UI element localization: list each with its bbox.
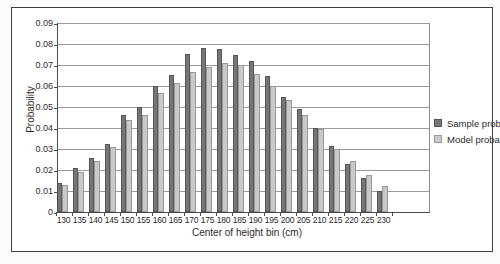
- bar-175-model: [206, 67, 212, 212]
- model-probability-swatch: [434, 135, 442, 143]
- sample-probability-swatch: [434, 119, 442, 127]
- bar-140-model: [94, 161, 100, 211]
- x-axis-line: [56, 212, 430, 213]
- bar-135-model: [78, 172, 84, 212]
- y-tick-mark: [54, 66, 57, 67]
- x-tick-mark: [232, 213, 233, 216]
- x-tick-mark: [392, 213, 393, 216]
- y-tick-label-0.01: 0.01: [21, 187, 53, 196]
- bar-145-model: [110, 147, 116, 211]
- y-tick-mark: [54, 171, 57, 172]
- bar-215-model: [334, 149, 340, 212]
- bar-225-model: [366, 175, 372, 212]
- bar-200-model: [286, 100, 292, 211]
- x-tick-mark: [296, 213, 297, 216]
- x-tick-mark: [120, 213, 121, 216]
- y-tick-mark: [54, 150, 57, 151]
- y-tick-mark: [54, 87, 57, 88]
- x-tick-mark: [216, 213, 217, 216]
- x-tick-mark: [360, 213, 361, 216]
- legend-item-model: Model probability: [434, 134, 500, 145]
- x-tick-mark: [280, 213, 281, 216]
- bar-220-model: [350, 161, 356, 211]
- x-tick-mark: [344, 213, 345, 216]
- bar-230-model: [382, 186, 388, 211]
- bar-205-model: [302, 115, 308, 212]
- x-tick-mark: [264, 213, 265, 216]
- x-tick-mark: [376, 213, 377, 216]
- bar-195-model: [270, 86, 276, 212]
- y-tick-label-0.03: 0.03: [21, 145, 53, 154]
- y-tick-label-0.02: 0.02: [21, 166, 53, 175]
- plot-right-border: [429, 23, 430, 213]
- legend-label-sample: Sample probability: [447, 118, 500, 129]
- x-tick-mark: [136, 213, 137, 216]
- x-tick-mark: [328, 213, 329, 216]
- x-tick-mark: [56, 213, 57, 216]
- x-tick-label-230: 230: [375, 216, 393, 225]
- y-tick-label-0: 0: [21, 208, 53, 217]
- bar-130-model: [62, 185, 68, 211]
- bar-165-model: [174, 83, 180, 211]
- x-tick-mark: [152, 213, 153, 216]
- x-tick-mark: [248, 213, 249, 216]
- bar-150-model: [126, 120, 132, 211]
- x-tick-mark: [184, 213, 185, 216]
- y-tick-label-0.04: 0.04: [21, 124, 53, 133]
- x-tick-mark: [200, 213, 201, 216]
- bar-185-model: [238, 65, 244, 212]
- x-axis-title: Center of height bin (cm): [122, 227, 372, 238]
- y-tick-mark: [54, 45, 57, 46]
- gridline-0.08: [57, 44, 430, 45]
- x-tick-mark: [104, 213, 105, 216]
- legend-item-sample: Sample probability: [434, 118, 500, 129]
- legend-label-model: Model probability: [447, 134, 500, 145]
- bar-155-model: [142, 115, 148, 212]
- y-tick-label-0.09: 0.09: [21, 19, 53, 28]
- bar-170-model: [190, 72, 196, 212]
- bar-210-model: [318, 129, 324, 212]
- x-tick-mark: [168, 213, 169, 216]
- plot-area: [57, 23, 430, 212]
- y-tick-label-0.06: 0.06: [21, 82, 53, 91]
- y-tick-label-0.05: 0.05: [21, 103, 53, 112]
- y-tick-mark: [54, 108, 57, 109]
- x-tick-mark: [72, 213, 73, 216]
- x-tick-mark: [88, 213, 89, 216]
- y-tick-mark: [54, 129, 57, 130]
- figure-page: Probability 00.010.020.030.040.050.060.0…: [0, 0, 500, 264]
- gridline-0.09: [57, 23, 430, 24]
- bar-180-model: [222, 63, 228, 211]
- chart-frame: Probability 00.010.020.030.040.050.060.0…: [11, 7, 493, 252]
- y-axis-line: [57, 23, 58, 213]
- y-tick-mark: [54, 24, 57, 25]
- y-tick-mark: [54, 192, 57, 193]
- bar-190-model: [254, 74, 260, 212]
- y-tick-label-0.08: 0.08: [21, 40, 53, 49]
- y-tick-label-0.07: 0.07: [21, 61, 53, 70]
- bar-160-model: [158, 93, 164, 212]
- x-tick-mark: [312, 213, 313, 216]
